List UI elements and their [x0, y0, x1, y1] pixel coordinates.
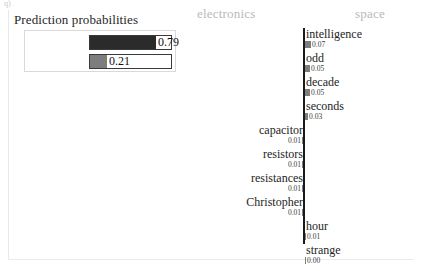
prediction-probabilities-title: Prediction probabilities — [14, 12, 138, 28]
feature-weight-bar — [305, 41, 311, 48]
feature-weight-value: 0.07 — [312, 40, 325, 50]
feature-weight-bar — [305, 257, 306, 264]
feature-weight-value: 0.00 — [307, 256, 320, 266]
feature-row: hour0.01 — [0, 220, 422, 244]
feature-row: intelligence0.07 — [0, 28, 422, 52]
feature-label: capacitor — [259, 124, 303, 136]
feature-row: resistances0.01 — [0, 172, 422, 196]
feature-weight-bar — [302, 185, 303, 192]
feature-label: seconds — [306, 100, 344, 112]
feature-label: resistances — [251, 172, 303, 184]
feature-label: decade — [306, 76, 339, 88]
lime-explanation-figure: q) . Prediction probabilities electronic… — [0, 0, 422, 271]
feature-weight-bar — [305, 113, 308, 120]
feature-label: intelligence — [306, 28, 362, 40]
feature-label: strange — [306, 244, 341, 256]
feature-row: capacitor0.01 — [0, 124, 422, 148]
feature-weight-value: 0.05 — [311, 64, 324, 74]
feature-weight-bar — [302, 209, 303, 216]
feature-weight-value: 0.03 — [309, 112, 322, 122]
feature-weight-bar — [305, 233, 306, 240]
feature-weight-bar — [305, 89, 310, 96]
feature-row: strange0.00 — [0, 244, 422, 268]
feature-row: resistors0.01 — [0, 148, 422, 172]
feature-label: odd — [306, 52, 324, 64]
feature-weight-value: 0.01 — [288, 208, 301, 218]
feature-row: odd0.05 — [0, 52, 422, 76]
feature-weight-value: 0.01 — [288, 136, 301, 146]
explanation-class-header-space: space — [355, 6, 385, 22]
feature-weight-value: 0.01 — [288, 184, 301, 194]
feature-weight-bar — [302, 137, 303, 144]
feature-weight-value: 0.05 — [311, 88, 324, 98]
feature-label: hour — [306, 220, 328, 232]
feature-weight-bar — [302, 161, 303, 168]
feature-row: Christopher0.01 — [0, 196, 422, 220]
feature-weight-value: 0.01 — [307, 232, 320, 242]
feature-label: Christopher — [246, 196, 303, 208]
feature-weight-bar — [305, 65, 310, 72]
feature-row: decade0.05 — [0, 76, 422, 100]
explanation-class-header-electronics: electronics — [197, 6, 256, 22]
feature-label: resistors — [263, 148, 303, 160]
top-left-artifact: q) . — [4, 0, 26, 8]
feature-weight-value: 0.01 — [288, 160, 301, 170]
feature-row: seconds0.03 — [0, 100, 422, 124]
